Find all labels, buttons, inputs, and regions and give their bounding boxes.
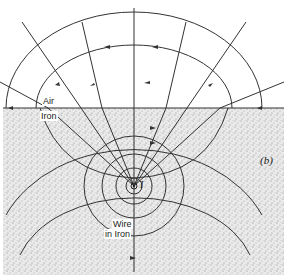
wire-label-line1: Wire [112, 219, 133, 229]
current-symbol: I [140, 179, 143, 190]
air-label: Air [42, 96, 55, 106]
wire-label-line2: in Iron [104, 229, 131, 239]
panel-label: (b) [260, 154, 273, 166]
iron-label: Iron [40, 111, 58, 121]
iron-region [3, 108, 284, 275]
field-diagram [0, 0, 284, 275]
